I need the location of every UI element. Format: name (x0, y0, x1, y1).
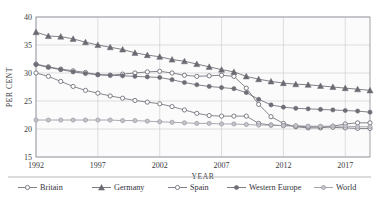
data-point-marker (59, 68, 63, 72)
data-point-marker (96, 73, 100, 77)
data-point-marker (269, 103, 273, 107)
data-point-marker (232, 87, 236, 91)
data-point-marker (207, 113, 211, 117)
data-point-marker (96, 118, 100, 122)
data-point-marker (108, 94, 112, 98)
data-point-marker (133, 119, 137, 123)
data-point-marker (145, 100, 149, 104)
data-point-marker (182, 80, 186, 84)
data-point-marker (59, 79, 63, 83)
data-point-marker (46, 74, 50, 78)
data-point-marker (71, 70, 75, 74)
data-point-marker (219, 85, 223, 89)
data-point-marker (34, 118, 38, 122)
data-point-marker (219, 114, 223, 118)
data-point-marker (71, 118, 75, 122)
data-point-marker (145, 75, 149, 79)
data-point-marker (182, 108, 186, 112)
data-point-marker (368, 121, 372, 125)
data-point-marker (25, 185, 29, 189)
data-point-marker (34, 63, 38, 67)
data-point-marker (158, 69, 162, 73)
y-tick-label: 25 (24, 97, 32, 106)
data-point-marker (356, 109, 360, 113)
data-point-marker (368, 125, 372, 129)
data-point-marker (306, 124, 310, 128)
x-tick-label: 1992 (28, 161, 44, 170)
data-point-marker (96, 91, 100, 95)
data-point-marker (356, 121, 360, 125)
data-point-marker (120, 74, 124, 78)
data-point-marker (232, 114, 236, 118)
data-point-marker (294, 106, 298, 110)
data-point-marker (207, 74, 211, 78)
data-point-marker (207, 84, 211, 88)
data-point-marker (182, 121, 186, 125)
legend-item-spain[interactable]: Spain (168, 183, 209, 192)
data-point-marker (281, 124, 285, 128)
chart-legend: BritainGermanySpainWestern EuropeWorld (18, 183, 356, 192)
data-point-marker (195, 74, 199, 78)
data-point-marker (34, 71, 38, 75)
data-point-marker (269, 123, 273, 127)
data-point-marker (83, 71, 87, 75)
data-point-marker (145, 70, 149, 74)
data-point-marker (219, 122, 223, 126)
legend-label: Western Europe (249, 183, 302, 192)
line-chart: 152025303540199219972002200720122017PER … (0, 0, 379, 199)
y-tick-label: 20 (24, 125, 32, 134)
data-point-marker (108, 73, 112, 77)
y-tick-label: 40 (24, 13, 32, 22)
data-point-marker (182, 73, 186, 77)
data-point-marker (170, 120, 174, 124)
y-axis-title: PER CENT (5, 67, 14, 107)
data-point-marker (331, 108, 335, 112)
data-point-marker (83, 118, 87, 122)
data-point-marker (195, 111, 199, 115)
data-point-marker (195, 83, 199, 87)
data-point-marker (133, 74, 137, 78)
legend-item-germany[interactable]: Germany (92, 183, 145, 192)
data-point-marker (269, 115, 273, 119)
data-point-marker (368, 110, 372, 114)
data-point-marker (244, 86, 248, 90)
data-point-marker (294, 124, 298, 128)
data-point-marker (158, 102, 162, 106)
data-point-marker (158, 120, 162, 124)
x-tick-label: 2012 (275, 161, 291, 170)
data-point-marker (158, 75, 162, 79)
x-axis-title: YEAR (192, 172, 215, 181)
data-point-marker (331, 124, 335, 128)
x-tick-label: 1997 (90, 161, 106, 170)
chart-figure: 152025303540199219972002200720122017PER … (0, 0, 379, 199)
data-point-marker (232, 74, 236, 78)
data-point-marker (232, 122, 236, 126)
data-point-marker (244, 122, 248, 126)
legend-label: Spain (190, 183, 209, 192)
data-point-marker (234, 185, 238, 189)
data-point-marker (83, 88, 87, 92)
x-tick-label: 2002 (152, 161, 168, 170)
data-point-marker (219, 73, 223, 77)
data-point-marker (120, 96, 124, 100)
data-point-marker (244, 114, 248, 118)
legend-item-western-europe[interactable]: Western Europe (227, 183, 302, 192)
legend-item-britain[interactable]: Britain (18, 183, 63, 192)
data-point-marker (59, 118, 63, 122)
data-point-marker (281, 105, 285, 109)
legend-label: Germany (114, 183, 145, 192)
legend-label: Britain (40, 183, 63, 192)
y-tick-label: 30 (24, 69, 32, 78)
data-point-marker (175, 185, 179, 189)
x-tick-label: 2007 (214, 161, 230, 170)
data-point-marker (343, 124, 347, 128)
data-point-marker (170, 71, 174, 75)
data-point-marker (244, 91, 248, 95)
y-tick-label: 35 (24, 41, 32, 50)
data-point-marker (170, 78, 174, 82)
data-point-marker (257, 123, 261, 127)
data-point-marker (318, 107, 322, 111)
x-tick-label: 2017 (337, 161, 353, 170)
data-point-marker (207, 121, 211, 125)
legend-item-world[interactable]: World (314, 183, 356, 192)
